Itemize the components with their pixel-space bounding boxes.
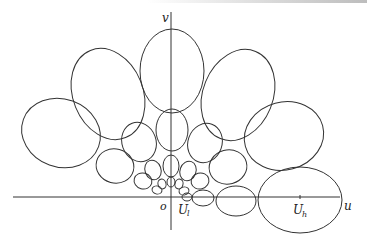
ellipse-far-right bbox=[237, 93, 332, 179]
origin-label: o bbox=[160, 200, 167, 213]
ellipse-bottom-big-right bbox=[258, 167, 342, 233]
uh-label-subscript: h bbox=[302, 210, 307, 219]
ellipse-low-right bbox=[205, 146, 251, 189]
ellipse-center-mid bbox=[156, 109, 188, 151]
ellipse-right-tiny-3 bbox=[178, 186, 190, 196]
ellipse-top-center bbox=[140, 29, 204, 113]
ellipse-left-tiny-2 bbox=[157, 178, 167, 190]
ul-label-subscript: l bbox=[187, 209, 190, 218]
ellipse-low-left bbox=[92, 145, 138, 188]
ellipse-left-small bbox=[142, 158, 164, 182]
ellipse-mid-right bbox=[182, 118, 228, 167]
u-axis-label: u bbox=[344, 199, 352, 213]
ellipse-mid-left bbox=[116, 117, 162, 166]
axes-group bbox=[13, 12, 340, 230]
ellipse-packing-diagram: v u o U l U h bbox=[0, 0, 367, 243]
ellipse-upper-right bbox=[188, 38, 288, 151]
ellipse-left-tiny-3 bbox=[151, 185, 163, 195]
v-axis-label: v bbox=[162, 11, 169, 25]
ellipse-bottom-chain-1 bbox=[192, 190, 214, 206]
ellipse-right-tiny-1 bbox=[189, 171, 211, 191]
ellipse-bottom-chain-2 bbox=[216, 186, 256, 216]
ul-label: U l bbox=[178, 203, 190, 218]
uh-label: U h bbox=[293, 203, 307, 219]
ellipse-left-tiny-1 bbox=[132, 171, 154, 191]
